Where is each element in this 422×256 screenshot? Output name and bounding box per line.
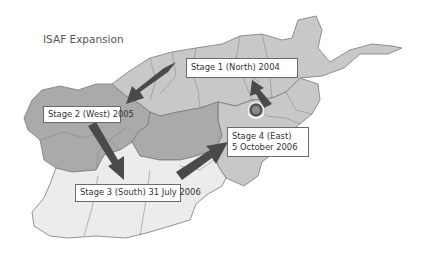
stage-2-text: Stage 2 (West) 2005 — [48, 109, 116, 120]
stage-3-label: Stage 3 (South) 31 July 2006 — [75, 184, 181, 202]
stage-4-label: Stage 4 (East) 5 October 2006 — [227, 127, 309, 157]
map-title: ISAF Expansion — [43, 33, 124, 45]
stage-1-text: Stage 1 (North) 2004 — [191, 62, 293, 73]
stage-4-text-line2: 5 October 2006 — [232, 142, 304, 153]
stage-1-label: Stage 1 (North) 2004 — [186, 58, 298, 78]
stage-4-text-line1: Stage 4 (East) — [232, 131, 304, 142]
stage-3-text: Stage 3 (South) 31 July 2006 — [80, 187, 176, 198]
stage-2-label: Stage 2 (West) 2005 — [43, 106, 121, 123]
isaf-emblem-icon — [248, 103, 264, 119]
